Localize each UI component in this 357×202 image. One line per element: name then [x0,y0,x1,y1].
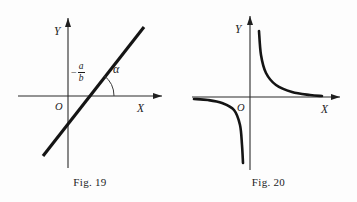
hyperbola-branch-first-quadrant [259,31,322,96]
y-axis-label: Y [54,25,62,37]
figure-19-canvas: Y X O α [0,0,180,176]
fraction-denominator: b [78,74,85,84]
figure-20-canvas: Y X O [180,0,357,176]
y-axis-arrowhead [247,16,253,25]
linear-graph-line [43,27,144,156]
figure-panel-fig-19: Y X O α − a b Fig. 19 [0,0,180,202]
x-axis-label: X [136,102,145,114]
fraction-numerator: a [78,62,85,72]
origin-label: O [237,102,245,113]
x-axis-label: X [320,103,329,115]
hyperbola-branch-third-quadrant [194,99,243,163]
y-axis-arrowhead [65,18,71,27]
figure-sheet: Y X O α − a b Fig. 19 [0,0,357,202]
figure-panel-fig-20: Y X O Fig. 20 [180,0,357,202]
fraction-minus-sign: − [71,68,77,78]
x-axis-arrowhead [153,93,162,99]
x-axis-arrowhead [331,94,340,100]
origin-label: O [55,101,63,112]
x-intercept-fraction-label: − a b [71,62,85,83]
figure-caption-fig-19: Fig. 19 [0,176,180,188]
figure-caption-fig-20: Fig. 20 [180,176,357,188]
angle-alpha-label: α [113,62,120,76]
fraction-stack: a b [78,62,85,83]
y-axis-label: Y [235,23,243,35]
